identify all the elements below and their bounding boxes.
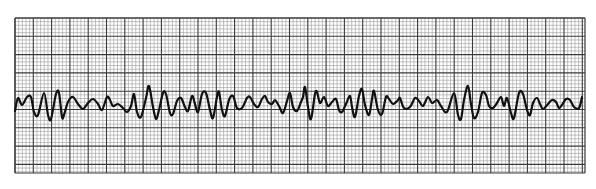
ecg-chart [0, 0, 596, 189]
ecg-rhythm-strip [0, 0, 596, 189]
